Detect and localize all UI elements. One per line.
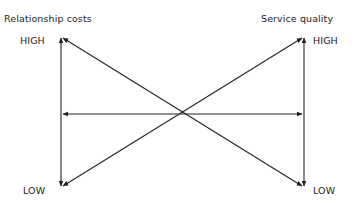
arrows-graphic [0, 0, 355, 205]
